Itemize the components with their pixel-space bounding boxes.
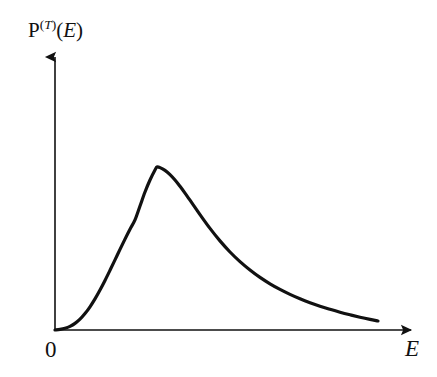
plot-canvas [0,0,437,377]
y-axis-label-superscript-variable: T [44,17,51,32]
y-axis-label-function-name: P [28,18,40,42]
origin-label: 0 [45,338,57,361]
x-axis-label: E [405,337,419,360]
y-axis-label: P(T)(E) [28,18,83,41]
distribution-curve [55,167,378,330]
y-axis-label-argument-close-paren: ) [76,18,83,42]
y-axis-label-argument-variable: E [63,18,76,42]
figure-container: P(T)(E) 0 E [0,0,437,377]
y-axis-label-argument: (E) [56,18,83,42]
y-axis-label-superscript: (T) [40,17,56,32]
